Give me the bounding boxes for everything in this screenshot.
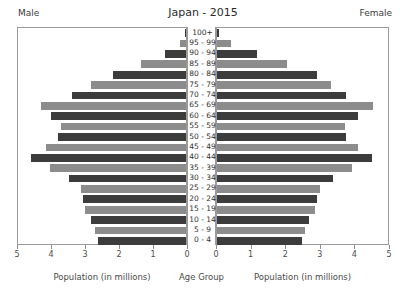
age-group-label: 45 - 49 xyxy=(188,143,217,151)
bar-row xyxy=(18,81,186,89)
axis-tick xyxy=(17,245,18,249)
axis-tick-label: 4 xyxy=(48,250,53,259)
bar-row xyxy=(18,227,186,235)
chart-title: Japan - 2015 xyxy=(0,6,406,19)
axis-tick xyxy=(153,245,154,249)
bar-row xyxy=(18,123,186,131)
bar-row xyxy=(217,237,388,245)
female-bar-15-19 xyxy=(217,206,315,214)
age-group-label: 5 - 9 xyxy=(188,226,217,234)
female-bar-90-94 xyxy=(217,50,257,58)
axis-tick xyxy=(285,245,286,249)
bar-row xyxy=(217,154,388,162)
age-group-label: 25 - 29 xyxy=(188,184,217,192)
male-bar-80-84 xyxy=(113,71,186,79)
male-x-axis: 543210 xyxy=(17,245,187,261)
axis-tick-label: 1 xyxy=(150,250,155,259)
bar-row xyxy=(18,164,186,172)
female-bar-100+ xyxy=(217,29,219,37)
age-group-label: 70 - 74 xyxy=(188,91,217,99)
bar-row xyxy=(217,185,388,193)
axis-tick-label: 1 xyxy=(248,250,253,259)
female-bar-0-4 xyxy=(217,237,302,245)
age-group-label: 65 - 69 xyxy=(188,101,217,109)
male-bar-50-54 xyxy=(58,133,186,141)
bar-row xyxy=(217,112,388,120)
male-bar-5-9 xyxy=(95,227,186,235)
axis-tick-label: 3 xyxy=(317,250,322,259)
male-bar-35-39 xyxy=(50,164,186,172)
bar-row xyxy=(18,92,186,100)
axis-tick xyxy=(251,245,252,249)
bar-row xyxy=(18,185,186,193)
bar-row xyxy=(18,112,186,120)
male-bar-40-44 xyxy=(31,154,186,162)
male-bar-30-34 xyxy=(69,175,186,183)
age-group-label: 90 - 94 xyxy=(188,49,217,57)
male-bar-75-79 xyxy=(91,81,186,89)
age-group-label: 60 - 64 xyxy=(188,112,217,120)
male-bar-0-4 xyxy=(98,237,186,245)
bar-row xyxy=(18,71,186,79)
male-bar-100+ xyxy=(185,29,186,37)
female-bar-70-74 xyxy=(217,92,346,100)
bar-row xyxy=(217,71,388,79)
male-bar-95-99 xyxy=(180,40,186,48)
age-group-label: 50 - 54 xyxy=(188,133,217,141)
male-bars xyxy=(18,28,186,244)
female-bar-80-84 xyxy=(217,71,317,79)
bar-row xyxy=(18,40,186,48)
axis-tick-label: 0 xyxy=(184,250,189,259)
bar-row xyxy=(18,175,186,183)
female-bar-5-9 xyxy=(217,227,305,235)
bar-row xyxy=(217,195,388,203)
female-x-axis: 012345 xyxy=(216,245,389,261)
axis-tick-label: 2 xyxy=(283,250,288,259)
female-bar-10-14 xyxy=(217,216,309,224)
population-pyramid-figure: Male Japan - 2015 Female 0 - 45 - 910 - … xyxy=(0,0,406,303)
bar-row xyxy=(217,81,388,89)
bar-row xyxy=(18,237,186,245)
age-group-label: 85 - 89 xyxy=(188,60,217,68)
age-group-label: 75 - 79 xyxy=(188,81,217,89)
bar-row xyxy=(217,206,388,214)
bar-row xyxy=(18,206,186,214)
age-group-label: 15 - 19 xyxy=(188,205,217,213)
bar-row xyxy=(217,50,388,58)
bar-row xyxy=(18,154,186,162)
age-group-label: 80 - 84 xyxy=(188,70,217,78)
bar-row xyxy=(18,133,186,141)
male-bar-70-74 xyxy=(72,92,186,100)
age-group-label: 20 - 24 xyxy=(188,195,217,203)
male-bar-25-29 xyxy=(81,185,186,193)
bar-row xyxy=(217,216,388,224)
male-bar-60-64 xyxy=(51,112,186,120)
male-bar-20-24 xyxy=(83,195,186,203)
female-bar-55-59 xyxy=(217,123,345,131)
female-axis-caption: Population (in millions) xyxy=(216,272,389,282)
bar-row xyxy=(217,227,388,235)
female-bar-45-49 xyxy=(217,144,358,152)
axis-tick-label: 5 xyxy=(386,250,391,259)
female-bars xyxy=(217,28,388,244)
age-group-axis: 0 - 45 - 910 - 1415 - 1920 - 2425 - 2930… xyxy=(187,27,216,245)
male-bar-85-89 xyxy=(141,60,186,68)
age-group-label: 10 - 14 xyxy=(188,216,217,224)
male-bar-65-69 xyxy=(41,102,186,110)
axis-tick xyxy=(320,245,321,249)
bar-row xyxy=(18,144,186,152)
axis-tick xyxy=(119,245,120,249)
axis-tick-label: 0 xyxy=(213,250,218,259)
bar-row xyxy=(217,40,388,48)
axis-tick-label: 3 xyxy=(82,250,87,259)
axis-tick xyxy=(216,245,217,249)
bar-row xyxy=(217,29,388,37)
female-bar-85-89 xyxy=(217,60,287,68)
axis-tick-label: 2 xyxy=(116,250,121,259)
male-bar-90-94 xyxy=(165,50,186,58)
female-bar-20-24 xyxy=(217,195,317,203)
bar-row xyxy=(18,216,186,224)
bar-row xyxy=(217,133,388,141)
female-bar-60-64 xyxy=(217,112,358,120)
bar-row xyxy=(217,164,388,172)
